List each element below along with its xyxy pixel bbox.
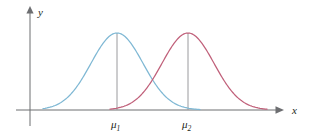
figure-canvas: y x μ1 μ2 <box>0 0 310 137</box>
x-axis-label: x <box>291 104 297 116</box>
y-axis-label: y <box>37 6 43 18</box>
normal-curves-figure: y x μ1 μ2 <box>0 0 310 137</box>
arrow-up-icon <box>26 6 33 14</box>
tick-label-mu-2: μ2 <box>181 118 192 133</box>
mu-2-subscript: 2 <box>188 124 192 133</box>
mu-1-subscript: 1 <box>117 124 121 133</box>
arrow-right-icon <box>276 106 285 114</box>
tick-label-mu-1: μ1 <box>110 118 120 133</box>
normal-curve-1 <box>43 33 200 110</box>
